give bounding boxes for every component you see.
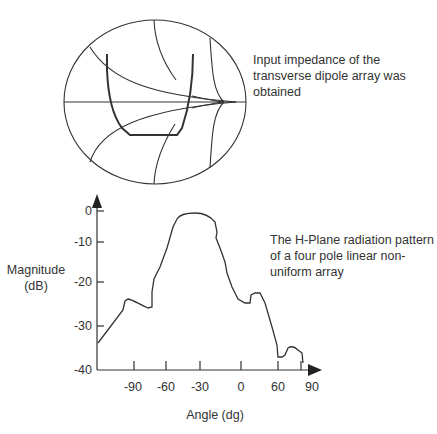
x-tick-label: -90 xyxy=(118,380,148,394)
smith-arc xyxy=(192,102,224,108)
y-tick-label: -30 xyxy=(62,319,92,333)
x-tick-label: 90 xyxy=(297,380,327,394)
smith-chart xyxy=(64,20,246,184)
smith-arc xyxy=(210,38,224,102)
smith-arc xyxy=(154,20,176,80)
y-tick-label: -40 xyxy=(62,363,92,377)
x-tick-label: -30 xyxy=(185,380,215,394)
smith-arc xyxy=(154,124,175,184)
smith-arc xyxy=(90,102,236,162)
x-axis-arrow-icon xyxy=(308,364,322,376)
y-axis-arrow-icon xyxy=(92,194,102,208)
radiation-plot-caption: The H-Plane radiation pattern of a four … xyxy=(270,232,437,280)
y-axis-label: Magnitude (dB) xyxy=(4,262,68,294)
x-tick-label: 60 xyxy=(263,380,293,394)
x-tick-label: -60 xyxy=(151,380,181,394)
x-axis-label: Angle (dg) xyxy=(160,408,270,422)
y-tick-label: 0 xyxy=(62,204,92,218)
smith-arc xyxy=(90,47,236,102)
smith-chart-caption: Input impedance of the transverse dipole… xyxy=(253,52,437,100)
x-tick-label: 0 xyxy=(226,380,256,394)
smith-arc xyxy=(192,96,224,102)
y-tick-label: -10 xyxy=(62,235,92,249)
y-tick-label: -20 xyxy=(62,275,92,289)
y-axis-label-line2: (dB) xyxy=(4,278,68,294)
radiation-plot xyxy=(92,194,322,376)
impedance-locus xyxy=(107,54,193,135)
y-axis-label-line1: Magnitude xyxy=(4,262,68,278)
